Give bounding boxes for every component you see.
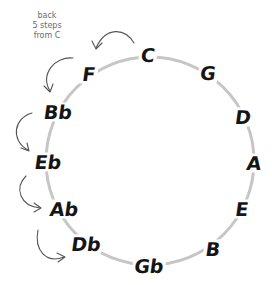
key-label-bb: Bb xyxy=(41,103,76,122)
key-label-f: F xyxy=(79,65,99,84)
key-label-db: Db xyxy=(68,235,104,254)
arrow-bb-to-eb-icon xyxy=(16,113,32,151)
key-label-ab: Ab xyxy=(47,200,82,219)
key-label-eb: Eb xyxy=(31,153,64,172)
key-label-c: C xyxy=(138,46,159,65)
key-label-g: G xyxy=(197,64,219,83)
arrow-eb-to-ab-icon xyxy=(20,176,41,212)
arrow-c-to-f-icon xyxy=(92,32,134,49)
key-label-e: E xyxy=(232,200,252,219)
key-label-d: D xyxy=(232,108,254,127)
key-label-gb: Gb xyxy=(131,257,167,276)
note-line-3: from C xyxy=(22,31,72,41)
key-label-a: A xyxy=(243,154,264,173)
note-line-2: 5 steps xyxy=(22,21,72,31)
annotation-note: back 5 steps from C xyxy=(22,11,72,41)
note-line-1: back xyxy=(22,11,72,21)
diagram-graphics xyxy=(0,0,272,285)
arrow-f-to-bb-icon xyxy=(44,58,73,92)
key-label-b: B xyxy=(202,240,223,259)
circle-of-fifths-diagram: back 5 steps from C C G D A E B Gb Db Ab… xyxy=(0,0,272,285)
arrow-ab-to-db-icon xyxy=(37,230,65,262)
